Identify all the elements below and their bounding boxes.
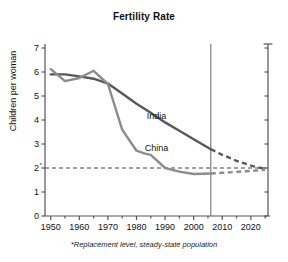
series-projection-china (211, 170, 265, 174)
y-axis-tick-label: 7 (34, 43, 39, 53)
chart-plot-area: 012*345671950196019701980199020002010202… (0, 0, 288, 262)
series-line-china (51, 69, 211, 174)
y-axis-tick-label: 0 (34, 211, 39, 221)
x-axis-tick-label: 1980 (126, 222, 146, 232)
y-axis-tick-label: 1 (34, 187, 39, 197)
x-axis-tick-label: 2010 (212, 222, 232, 232)
y-axis-tick-label: 4 (34, 115, 39, 125)
series-projection-india (211, 149, 265, 169)
replacement-asterisk: * (40, 162, 43, 168)
x-axis-tick-label: 1960 (69, 222, 89, 232)
series-annotation-india: India (147, 111, 167, 121)
y-axis-tick-label: 2 (34, 163, 39, 173)
x-axis-tick-label: 2000 (184, 222, 204, 232)
x-axis-tick-label: 2020 (241, 222, 261, 232)
y-axis-tick-label: 6 (34, 67, 39, 77)
y-axis-tick-label: 5 (34, 91, 39, 101)
x-axis-tick-label: 1990 (155, 222, 175, 232)
series-annotation-china: China (145, 143, 169, 153)
chart-footnote: *Replacement level, steady-state populat… (0, 240, 288, 249)
series-line-india (51, 74, 211, 149)
x-axis-tick-label: 1970 (98, 222, 118, 232)
fertility-rate-chart-figure: Fertility Rate Children per woman 012*34… (0, 0, 288, 262)
x-axis-tick-label: 1950 (41, 222, 61, 232)
y-axis-tick-label: 3 (34, 139, 39, 149)
